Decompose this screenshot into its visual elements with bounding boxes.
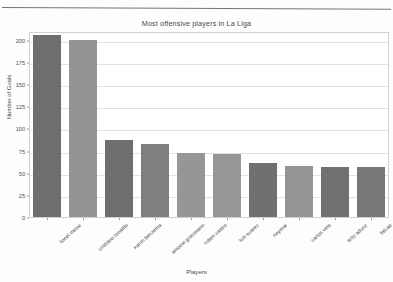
- y-axis: 0255075100125150175200: [0, 32, 29, 218]
- y-tick-mark: [27, 195, 29, 196]
- chart-title: Most offensive players in La Liga: [0, 19, 393, 28]
- gridline: [30, 42, 388, 43]
- x-tick-label: neymar: [271, 222, 288, 238]
- x-tick-mark: [299, 218, 300, 220]
- x-tick-mark: [155, 218, 156, 220]
- x-tick-mark: [371, 218, 372, 220]
- scanned-page: Most offensive players in La Liga 025507…: [0, 0, 393, 282]
- gridline: [30, 108, 388, 109]
- x-tick-mark: [191, 218, 192, 220]
- x-tick-label: lionel messi: [58, 222, 82, 245]
- x-tick-label: karim benzema: [132, 222, 162, 250]
- y-tick-mark: [27, 40, 29, 41]
- y-tick-label: 100: [16, 126, 25, 132]
- x-tick-mark: [119, 218, 120, 220]
- y-tick-mark: [27, 63, 29, 64]
- y-tick-label: 175: [16, 60, 25, 66]
- x-tick-mark: [83, 218, 84, 220]
- x-tick-label: carlos vela: [309, 222, 331, 243]
- y-tick-label: 25: [19, 193, 25, 199]
- y-tick-label: 50: [19, 171, 25, 177]
- x-tick-mark: [263, 218, 264, 220]
- y-tick-label: 75: [19, 149, 25, 155]
- gridline: [30, 130, 388, 131]
- gridlines: [30, 33, 388, 217]
- y-tick-mark: [27, 107, 29, 108]
- x-axis: lionel messicristiano ronaldokarim benze…: [29, 218, 389, 268]
- y-tick-mark: [27, 151, 29, 152]
- plot-area: [29, 32, 389, 218]
- y-tick-mark: [27, 129, 29, 130]
- x-tick-label: luis suarez: [237, 222, 259, 243]
- gridline: [30, 86, 388, 87]
- x-tick-label: aritz aduriz: [346, 222, 369, 243]
- gridline: [30, 153, 388, 154]
- x-tick-mark: [227, 218, 228, 220]
- y-axis-title: Number of Goals: [6, 58, 12, 136]
- x-tick-label: antoine griezmann: [170, 222, 206, 255]
- y-tick-label: 125: [16, 104, 25, 110]
- gridline: [30, 197, 388, 198]
- y-tick-mark: [27, 173, 29, 174]
- x-tick-label: falcao: [379, 222, 393, 236]
- x-tick-mark: [335, 218, 336, 220]
- bar-chart: Most offensive players in La Liga 025507…: [0, 10, 393, 282]
- x-tick-mark: [47, 218, 48, 220]
- y-tick-label: 150: [16, 82, 25, 88]
- x-axis-title: Players: [0, 268, 393, 275]
- y-tick-label: 200: [16, 38, 25, 44]
- x-tick-label: cristiano ronaldo: [97, 222, 129, 252]
- y-tick-mark: [27, 85, 29, 86]
- gridline: [30, 64, 388, 65]
- gridline: [30, 175, 388, 176]
- x-tick-label: ruben castro: [202, 222, 227, 246]
- y-tick-label: 0: [22, 215, 25, 221]
